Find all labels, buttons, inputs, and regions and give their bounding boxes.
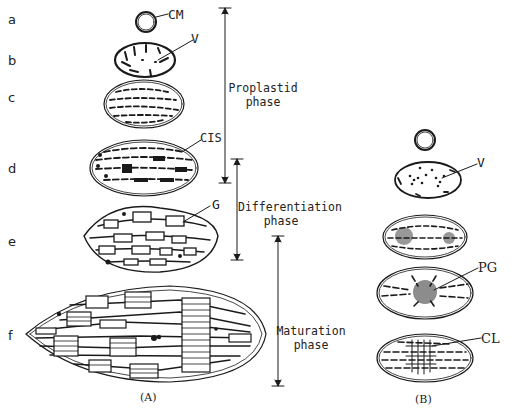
stage-f-plastid xyxy=(26,286,266,382)
row-label-c: c xyxy=(8,90,15,105)
row-label-b: b xyxy=(8,53,16,68)
phase-proplastid: Proplastid phase xyxy=(228,81,298,109)
panel-b-stage-3 xyxy=(383,215,467,259)
row-label-d: d xyxy=(8,161,16,176)
label-v-b: V xyxy=(477,155,485,170)
plastid-development-diagram: a b c d e f CM V CIS G Proplastid phase … xyxy=(0,0,521,412)
row-label-e: e xyxy=(8,234,16,249)
row-label-a: a xyxy=(8,12,16,27)
phase-differentiation: Differentiation phase xyxy=(238,200,324,228)
stage-d-plastid xyxy=(90,140,201,196)
panel-b-stage-5 xyxy=(377,334,481,382)
caption-panel-b: (B) xyxy=(415,393,432,406)
label-v-a: V xyxy=(191,31,199,46)
panel-b-stage-1 xyxy=(415,130,435,150)
caption-panel-a: (A) xyxy=(140,391,157,404)
stage-b-plastid xyxy=(115,40,193,77)
label-cl: CL xyxy=(481,331,500,346)
panel-b-stage-2 xyxy=(395,162,477,198)
panel-b-stage-4 xyxy=(377,267,478,319)
stage-c-plastid xyxy=(104,80,184,128)
label-g: G xyxy=(212,197,220,212)
label-pg: PG xyxy=(478,260,497,275)
stage-e-plastid xyxy=(84,206,218,272)
row-label-f: f xyxy=(8,328,13,343)
label-cm: CM xyxy=(168,7,184,22)
label-cis: CIS xyxy=(200,131,222,145)
stage-a-plastid xyxy=(136,12,168,32)
phase-maturation: Maturation phase xyxy=(276,324,346,352)
